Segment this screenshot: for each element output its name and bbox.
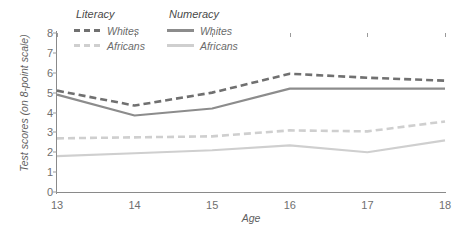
legend-swatch-icon xyxy=(167,44,194,47)
y-axis-title: Test scores (on 8-point scale) xyxy=(18,18,30,188)
x-axis-line xyxy=(56,192,446,193)
x-axis-title: Age xyxy=(57,212,445,224)
legend-item-label: Whites xyxy=(200,25,232,37)
line-chart: Test scores (on 8-point scale) 012345678… xyxy=(0,0,458,236)
x-tick-mark xyxy=(445,33,446,37)
legend-item-label: Africans xyxy=(107,40,145,52)
series-lines xyxy=(57,33,445,192)
legend-item-label: Whites xyxy=(107,25,139,37)
legend-group-title: Literacy xyxy=(76,8,145,20)
series-line xyxy=(57,121,445,138)
legend-item[interactable]: Whites xyxy=(167,23,238,38)
legend-item-label: Africans xyxy=(200,40,238,52)
legend-swatch-icon xyxy=(74,44,101,47)
x-tick-label: 14 xyxy=(128,199,140,211)
x-tick-label: 15 xyxy=(206,199,218,211)
legend-item[interactable]: Africans xyxy=(74,38,145,53)
x-tick-label: 16 xyxy=(284,199,296,211)
plot-area: 012345678 131415161718 xyxy=(57,33,445,192)
legend-group: LiteracyWhitesAfricans xyxy=(74,8,145,53)
series-line xyxy=(57,140,445,156)
chart-legend: LiteracyWhitesAfricansNumeracyWhitesAfri… xyxy=(74,8,238,53)
legend-swatch-icon xyxy=(74,29,101,32)
legend-item[interactable]: Whites xyxy=(74,23,145,38)
legend-item[interactable]: Africans xyxy=(167,38,238,53)
legend-swatch-icon xyxy=(167,29,194,32)
x-tick-label: 13 xyxy=(51,199,63,211)
legend-group: NumeracyWhitesAfricans xyxy=(167,8,238,53)
x-tick-label: 18 xyxy=(439,199,451,211)
x-tick-label: 17 xyxy=(361,199,373,211)
legend-group-title: Numeracy xyxy=(169,8,238,20)
